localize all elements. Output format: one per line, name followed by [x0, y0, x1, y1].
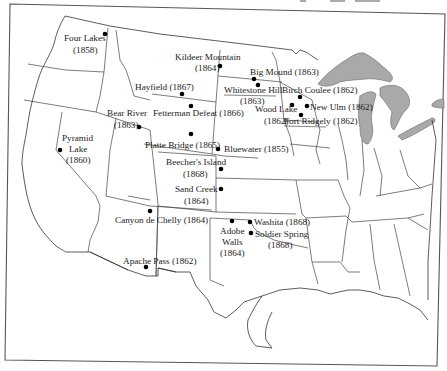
marker-sand-creek[interactable]: [219, 187, 224, 192]
marker-pyramid-lake[interactable]: [58, 148, 63, 153]
marker-hayfield[interactable]: [180, 92, 185, 97]
label-kildeer-mountain: Kildeer Mountain: [175, 52, 241, 62]
marker-platte-bridge[interactable]: [189, 132, 194, 137]
label-fetterman-defeat: Fetterman Defeat (1866): [153, 108, 244, 118]
label-beechers-island: Beecher's Island: [166, 157, 226, 167]
label-sand-creek: Sand Creek: [175, 184, 218, 194]
label-bear-river: Bear River: [107, 108, 147, 118]
battle-sites-map: Four Lakes (1858) Kildeer Mountain (1864…: [0, 0, 447, 371]
label-bluewater: Bluewater (1855): [224, 144, 289, 154]
label-birch-coulee: Birch Coulee (1862): [282, 85, 358, 95]
label-adobe-walls-year: (1864): [220, 248, 245, 258]
label-hayfield: Hayfield (1867): [135, 82, 194, 92]
label-soldier-spring-year: (1868): [268, 240, 293, 250]
marker-canyon-de-chelly[interactable]: [148, 209, 153, 214]
marker-soldier-spring[interactable]: [249, 231, 254, 236]
label-pyramid-lake-2: Lake: [69, 144, 87, 154]
label-beechers-island-year: (1868): [183, 169, 208, 179]
label-four-lakes: Four Lakes: [64, 33, 106, 43]
label-washita: Washita (1868): [254, 217, 310, 227]
label-soldier-spring: Soldier Spring: [255, 229, 309, 239]
label-adobe-walls: Adobe: [220, 226, 245, 236]
marker-new-ulm[interactable]: [305, 104, 310, 109]
label-four-lakes-year: (1858): [73, 45, 98, 55]
label-pyramid-lake-year: (1860): [66, 155, 91, 165]
marker-washita[interactable]: [248, 220, 253, 225]
label-apache-pass: Apache Pass (1862): [123, 256, 196, 266]
label-new-ulm: New Ulm (1862): [310, 102, 373, 112]
label-wood-lake: Wood Lake: [255, 104, 297, 114]
label-kildeer-mountain-year: (1864): [195, 63, 220, 73]
marker-beechers-island[interactable]: [219, 167, 224, 172]
label-fort-ridgely: Fort Ridgely (1862): [284, 116, 358, 126]
label-big-mound: Big Mound (1863): [250, 67, 319, 77]
marker-birch-coulee[interactable]: [298, 95, 303, 100]
label-pyramid-lake: Pyramid: [62, 133, 94, 143]
label-whitestone-hill: Whitestone Hill: [224, 85, 283, 95]
label-platte-bridge: Platte Bridge (1865): [145, 140, 220, 150]
label-canyon-de-chelly: Canyon de Chelly (1864): [115, 215, 208, 225]
marker-big-mound[interactable]: [252, 77, 257, 82]
label-bear-river-year: (1863): [114, 120, 139, 130]
marker-adobe-walls[interactable]: [230, 219, 235, 224]
label-sand-creek-year: (1864): [184, 196, 209, 206]
label-adobe-walls-2: Walls: [222, 237, 243, 247]
